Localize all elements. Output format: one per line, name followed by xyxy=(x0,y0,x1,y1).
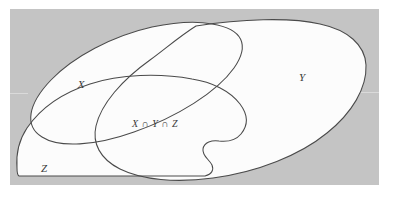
venn-diagram-figure: X Y Z X ∩ Y ∩ Z xyxy=(0,0,395,198)
triple-intersection-label: X ∩ Y ∩ Z xyxy=(131,118,178,129)
scan-artifact-line-right xyxy=(360,92,379,93)
venn-diagram-canvas: X Y Z X ∩ Y ∩ Z xyxy=(0,0,395,198)
set-label-x: X xyxy=(77,78,86,90)
set-label-z: Z xyxy=(41,162,48,174)
scan-artifact-line-left xyxy=(10,93,28,94)
